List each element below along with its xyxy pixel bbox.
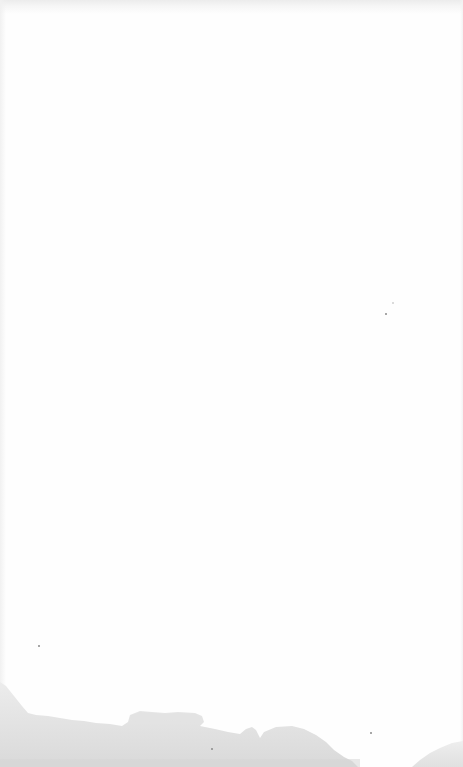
speck bbox=[38, 645, 40, 647]
bottom-shadow bbox=[0, 759, 360, 767]
speck bbox=[392, 302, 394, 304]
speck bbox=[370, 732, 372, 734]
speck bbox=[385, 313, 387, 315]
top-haze-band bbox=[0, 0, 463, 14]
ground-silhouette bbox=[0, 682, 358, 767]
right-mound bbox=[412, 741, 463, 767]
overexposed-landscape-photo bbox=[0, 0, 463, 767]
speck bbox=[211, 748, 213, 750]
landscape-silhouette bbox=[0, 660, 463, 767]
left-vignette bbox=[0, 0, 6, 767]
